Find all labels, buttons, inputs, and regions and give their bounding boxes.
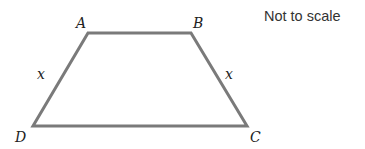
- vertex-label-d: D: [14, 129, 26, 145]
- vertex-label-b: B: [192, 15, 203, 31]
- vertex-label-a: A: [74, 15, 86, 31]
- not-to-scale-note: Not to scale: [264, 8, 341, 24]
- vertex-label-c: C: [250, 129, 261, 145]
- trapezium-shape: [33, 33, 247, 126]
- side-label-bc: x: [225, 66, 233, 82]
- side-label-ad: x: [37, 66, 45, 82]
